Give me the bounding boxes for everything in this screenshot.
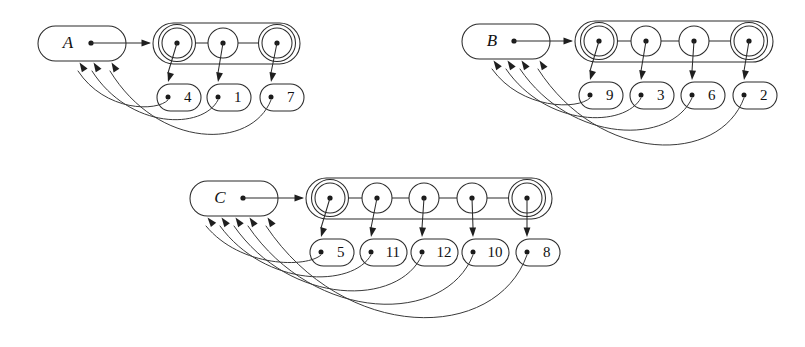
leaf-node-B-9[interactable] bbox=[579, 82, 623, 109]
leaf-arrow-B-2 bbox=[689, 70, 696, 80]
leaf-value-A-7: 7 bbox=[287, 89, 295, 105]
back-arrow-C-10 bbox=[250, 218, 258, 228]
leaf-dot-B-9 bbox=[588, 93, 593, 98]
back-arrow-A-4 bbox=[80, 63, 88, 73]
leaf-value-B-3: 3 bbox=[657, 87, 665, 103]
leaf-value-C-11: 11 bbox=[386, 244, 400, 260]
back-arrow-C-12 bbox=[236, 218, 244, 228]
leaf-value-C-5: 5 bbox=[337, 244, 345, 260]
leaf-value-A-4: 4 bbox=[184, 89, 192, 105]
leaf-arrow-C-4 bbox=[524, 228, 531, 238]
leaf-dot-A-4 bbox=[166, 95, 171, 100]
back-arrow-C-5 bbox=[208, 218, 217, 228]
leaf-arrow-C-3 bbox=[469, 227, 476, 237]
diagram-canvas: A417B9362C51112108 bbox=[0, 0, 805, 347]
head-arrow-C bbox=[295, 195, 305, 202]
leaf-arrow-C-2 bbox=[419, 227, 426, 237]
back-arrow-B-2 bbox=[540, 61, 548, 71]
leaf-value-B-6: 6 bbox=[708, 87, 716, 103]
leaf-arrow-C-1 bbox=[370, 227, 377, 237]
diagram-svg: A417B9362C51112108 bbox=[0, 0, 805, 347]
leaf-node-B-2[interactable] bbox=[733, 82, 777, 109]
leaf-node-C-5[interactable] bbox=[310, 239, 354, 266]
leaf-dot-A-1 bbox=[216, 95, 221, 100]
leaf-value-A-1: 1 bbox=[234, 89, 242, 105]
leaf-value-B-9: 9 bbox=[606, 87, 614, 103]
leaf-dot-C-5 bbox=[319, 250, 324, 255]
leaf-dot-C-10 bbox=[471, 250, 476, 255]
leaf-value-C-10: 10 bbox=[487, 244, 502, 260]
leaf-arrow-A-1 bbox=[216, 72, 223, 82]
leaf-arrow-B-1 bbox=[639, 70, 646, 80]
back-arrow-C-11 bbox=[222, 218, 230, 228]
leaf-arrow-C-0 bbox=[320, 227, 327, 237]
leaf-value-B-2: 2 bbox=[760, 87, 768, 103]
leaf-dot-A-7 bbox=[269, 95, 274, 100]
leaf-node-A-7[interactable] bbox=[260, 84, 304, 111]
leaf-arrow-A-0 bbox=[167, 72, 174, 82]
head-arrow-B bbox=[564, 38, 574, 45]
head-arrow-A bbox=[142, 40, 152, 47]
back-arrow-A-1 bbox=[94, 63, 102, 73]
group-label-A: A bbox=[62, 33, 74, 52]
back-curve-C-5 bbox=[206, 226, 321, 263]
back-arrow-B-6 bbox=[522, 61, 530, 71]
leaf-node-C-8[interactable] bbox=[516, 239, 560, 266]
leaf-dot-B-2 bbox=[742, 93, 747, 98]
back-arrow-B-3 bbox=[508, 61, 516, 71]
leaf-arrow-A-2 bbox=[270, 72, 277, 82]
back-arrow-B-9 bbox=[494, 61, 502, 71]
leaf-dot-B-6 bbox=[690, 93, 695, 98]
leaf-dot-C-11 bbox=[369, 250, 374, 255]
leaf-dot-C-8 bbox=[525, 250, 530, 255]
leaf-value-C-12: 12 bbox=[436, 244, 451, 260]
group-label-B: B bbox=[487, 31, 498, 50]
group-label-C: C bbox=[214, 188, 226, 207]
back-arrow-A-7 bbox=[112, 63, 120, 73]
leaf-node-A-4[interactable] bbox=[157, 84, 201, 111]
leaf-arrow-B-3 bbox=[742, 70, 749, 80]
leaf-dot-C-12 bbox=[420, 250, 425, 255]
back-arrow-C-8 bbox=[268, 218, 276, 228]
leaf-node-B-3[interactable] bbox=[630, 82, 674, 109]
leaf-value-C-8: 8 bbox=[543, 244, 551, 260]
leaf-dot-B-3 bbox=[639, 93, 644, 98]
leaf-arrow-B-0 bbox=[589, 70, 596, 80]
